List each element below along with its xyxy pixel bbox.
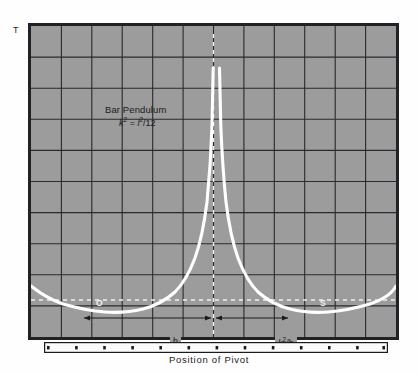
pivot-position-ruler bbox=[44, 342, 388, 353]
point-label-o: O bbox=[96, 298, 103, 308]
dimension-line-h bbox=[84, 315, 211, 320]
annotation-title: Bar Pendulum bbox=[105, 104, 166, 115]
dimension-line-k2-over-h bbox=[216, 315, 288, 320]
ruler-canvas bbox=[44, 342, 388, 353]
period-curve-right bbox=[220, 68, 397, 312]
x-axis-label: Position of Pivot bbox=[0, 354, 418, 365]
figure-root: T bbox=[0, 0, 418, 374]
y-axis-label: T bbox=[13, 25, 19, 35]
formula-divisor: /12 bbox=[143, 118, 156, 128]
plot-canvas bbox=[31, 26, 396, 337]
point-label-s: S bbox=[320, 298, 326, 308]
annotation-formula: k2 = l2/12 bbox=[119, 116, 156, 128]
plot-frame: Bar Pendulum k2 = l2/12 O S h k2/h bbox=[28, 23, 399, 340]
formula-equals: = bbox=[127, 118, 137, 128]
